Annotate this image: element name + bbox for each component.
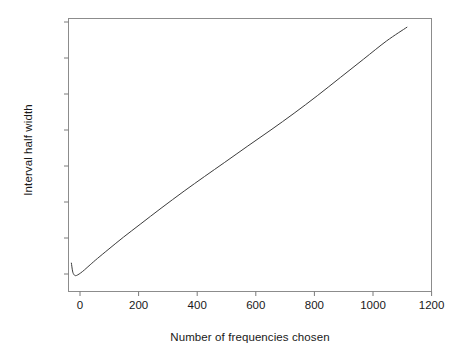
y-axis-label-text: Interval half width [22, 104, 34, 195]
x-tick-label-1200: 1200 [419, 299, 445, 311]
x-tick-label-600: 600 [246, 299, 265, 311]
x-tick-label-400: 400 [188, 299, 207, 311]
chart-figure: Interval half width Number of frequencie… [0, 0, 462, 361]
line-chart-svg [0, 0, 462, 361]
x-tick-label-0: 0 [77, 299, 83, 311]
x-axis-ticks [80, 292, 432, 297]
plot-frame [69, 19, 432, 292]
x-tick-label-800: 800 [305, 299, 324, 311]
x-axis-label-text: Number of frequencies chosen [68, 331, 432, 343]
x-tick-label-1000: 1000 [360, 299, 386, 311]
y-axis-label: Interval half width [8, 0, 48, 300]
y-axis-ticks [64, 22, 69, 274]
x-tick-label-200: 200 [129, 299, 148, 311]
